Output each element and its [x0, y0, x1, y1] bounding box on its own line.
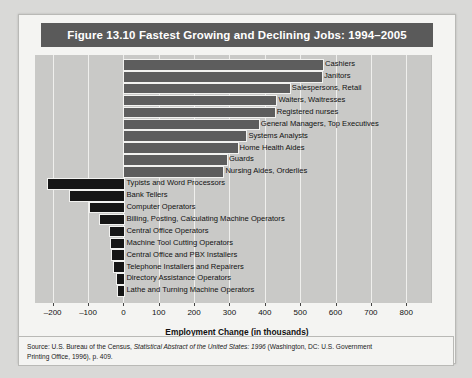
axis-tick — [265, 303, 266, 306]
bar-declining — [117, 285, 125, 297]
table-row: Directory Assistance Operators — [35, 273, 431, 285]
table-row: Guards — [35, 154, 431, 166]
axis-tick — [88, 303, 89, 306]
bar-label: Central Office Operators — [126, 226, 208, 235]
bar-declining — [113, 261, 126, 273]
table-row: Telephone Installers and Repairers — [35, 261, 431, 273]
axis-tick — [336, 303, 337, 306]
bar-label: Computer Operators — [126, 202, 195, 211]
table-row: Typists and Word Processors — [35, 178, 431, 190]
axis-tick-label: 800 — [400, 308, 413, 317]
bar-growing — [123, 142, 238, 154]
bar-label: Nursing Aides, Orderlies — [225, 166, 307, 175]
table-row: Central Office and PBX Installers — [35, 249, 431, 261]
axis-tick — [300, 303, 301, 306]
axis-tick-label: 700 — [364, 308, 377, 317]
bar-label: Waiters, Waitresses — [278, 95, 345, 104]
figure-page: Figure 13.10 Fastest Growing and Declini… — [0, 0, 472, 378]
axis-tick-label: 0 — [121, 308, 125, 317]
source-title-italic: Statistical Abstract of the United State… — [134, 343, 266, 350]
bar-label: Guards — [229, 154, 254, 163]
table-row: General Managers, Top Executives — [35, 119, 431, 131]
source-line-2: Printing Office, 1996), p. 409. — [27, 353, 113, 360]
bar-label: Machine Tool Cutting Operators — [126, 238, 233, 247]
bar-growing — [123, 130, 247, 142]
bar-label: Systems Analysts — [248, 131, 308, 140]
bar-declining — [99, 214, 125, 226]
bar-declining — [109, 226, 125, 238]
source-note: Source: U.S. Bureau of the Census, Stati… — [18, 336, 454, 366]
figure-card: Figure 13.10 Fastest Growing and Declini… — [18, 14, 456, 364]
axis-tick — [229, 303, 230, 306]
bar-label: Salespersons, Retail — [292, 83, 362, 92]
bar-growing — [123, 166, 224, 178]
bar-label: Janitors — [324, 71, 351, 80]
table-row: Central Office Operators — [35, 226, 431, 238]
axis-tick — [123, 303, 124, 306]
page-title: Figure 13.10 Fastest Growing and Declini… — [67, 29, 406, 41]
table-row: Systems Analysts — [35, 130, 431, 142]
axis-tick — [53, 303, 54, 306]
bar-growing — [123, 119, 259, 131]
table-row: Lathe and Turning Machine Operators — [35, 285, 431, 297]
axis-tick-label: –200 — [44, 308, 62, 317]
plot-area: CashiersJanitorsSalespersons, RetailWait… — [35, 55, 432, 303]
axis-tick-label: 600 — [329, 308, 342, 317]
table-row: Nursing Aides, Orderlies — [35, 166, 431, 178]
bar-declining — [110, 238, 125, 250]
table-row: Home Health Aides — [35, 142, 431, 154]
bar-growing — [123, 95, 277, 107]
bar-growing — [123, 83, 290, 95]
source-suffix: (Washington, DC: U.S. Government — [266, 343, 372, 350]
axis-tick-label: 300 — [223, 308, 236, 317]
axis-tick — [194, 303, 195, 306]
bar-label: Directory Assistance Operators — [126, 273, 231, 282]
bar-label: Home Health Aides — [240, 143, 305, 152]
table-row: Registered nurses — [35, 107, 431, 119]
bar-label: Billing, Posting, Calculating Machine Op… — [126, 214, 284, 223]
bar-declining — [116, 273, 126, 285]
bar-declining — [89, 202, 126, 214]
table-row: Machine Tool Cutting Operators — [35, 238, 431, 250]
bar-declining — [111, 249, 126, 261]
axis-tick-label: 500 — [293, 308, 306, 317]
table-row: Waiters, Waitresses — [35, 95, 431, 107]
bar-label: Lathe and Turning Machine Operators — [126, 285, 254, 294]
axis-tick-label: 100 — [152, 308, 165, 317]
axis-tick — [406, 303, 407, 306]
bar-declining — [47, 178, 125, 190]
bar-growing — [123, 107, 275, 119]
bar-growing — [123, 71, 323, 83]
axis-tick — [159, 303, 160, 306]
bar-label: Telephone Installers and Repairers — [126, 262, 243, 271]
axis-tick-label: 400 — [258, 308, 271, 317]
table-row: Janitors — [35, 71, 431, 83]
bar-label: Registered nurses — [277, 107, 339, 116]
bar-growing — [123, 59, 324, 71]
table-row: Cashiers — [35, 59, 431, 71]
table-row: Billing, Posting, Calculating Machine Op… — [35, 214, 431, 226]
source-prefix: Source: U.S. Bureau of the Census, — [27, 343, 134, 350]
bar-label: Typists and Word Processors — [126, 178, 225, 187]
axis-tick-label: –100 — [79, 308, 97, 317]
figure-title-bar: Figure 13.10 Fastest Growing and Declini… — [41, 23, 433, 47]
bar-label: Central Office and PBX Installers — [126, 250, 237, 259]
table-row: Salespersons, Retail — [35, 83, 431, 95]
table-row: Bank Tellers — [35, 190, 431, 202]
bar-label: General Managers, Top Executives — [261, 119, 379, 128]
axis-tick — [371, 303, 372, 306]
bar-rows: CashiersJanitorsSalespersons, RetailWait… — [35, 55, 431, 303]
table-row: Computer Operators — [35, 202, 431, 214]
source-text: Source: U.S. Bureau of the Census, Stati… — [27, 342, 445, 361]
bar-label: Bank Tellers — [126, 190, 167, 199]
bar-declining — [69, 190, 126, 202]
bar-label: Cashiers — [325, 59, 355, 68]
bar-growing — [123, 154, 228, 166]
axis-tick-label: 200 — [187, 308, 200, 317]
x-axis: –200–1000100200300400500600700800 — [35, 303, 431, 325]
